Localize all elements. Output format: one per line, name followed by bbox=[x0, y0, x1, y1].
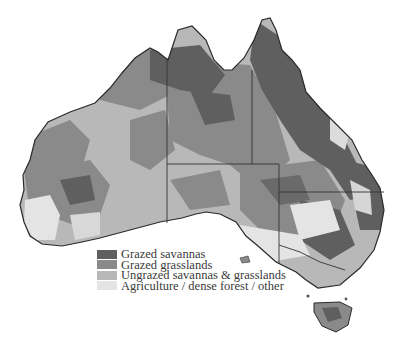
legend-swatch-icon bbox=[97, 250, 117, 259]
island bbox=[345, 298, 348, 301]
legend-swatch-icon bbox=[97, 260, 117, 269]
legend-item-agriculture: Agriculture / dense forest / other bbox=[97, 281, 286, 292]
land-use-regions bbox=[20, 20, 385, 262]
map-graphic bbox=[0, 0, 409, 347]
australia-map: Grazed savannas Grazed grasslands Ungraz… bbox=[0, 0, 409, 347]
legend-label: Agriculture / dense forest / other bbox=[121, 281, 284, 292]
island bbox=[306, 294, 309, 297]
map-legend: Grazed savannas Grazed grasslands Ungraz… bbox=[97, 249, 286, 291]
legend-swatch-icon bbox=[97, 271, 117, 280]
legend-swatch-icon bbox=[97, 281, 117, 290]
